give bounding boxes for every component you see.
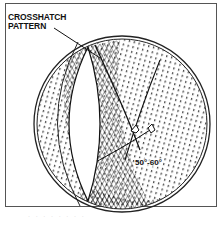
figure-caption: · · · · · · · · — [28, 213, 86, 219]
cylinder-bore-illustration — [0, 0, 224, 229]
angle-label: 50°-60° — [135, 158, 162, 167]
crosshatch-pattern-label: CROSSHATCH PATTERN — [8, 13, 66, 31]
callout-line-2: PATTERN — [8, 22, 66, 31]
